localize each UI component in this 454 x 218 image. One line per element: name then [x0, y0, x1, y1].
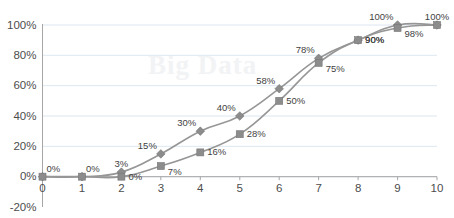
y-axis-tick-label: 100% — [0, 19, 37, 31]
data-point-label: 50% — [286, 96, 305, 106]
x-axis-tick-label: 1 — [68, 182, 96, 194]
data-point-marker-square — [118, 173, 125, 180]
data-point-marker-square — [394, 25, 401, 32]
y-axis-tick-label: 80% — [0, 49, 37, 61]
data-point-label: 90% — [365, 35, 384, 45]
data-point-label: 3% — [101, 159, 141, 169]
y-axis-tick-label: -20% — [0, 201, 37, 213]
data-point-marker-square — [276, 97, 283, 104]
y-axis-tick-label: 60% — [0, 79, 37, 91]
data-point-marker-square — [197, 149, 204, 156]
x-axis-tick-label: 0 — [29, 182, 57, 194]
data-point-marker-square — [157, 163, 164, 170]
y-axis-tick-label: 20% — [0, 140, 37, 152]
x-axis-tick-label: 6 — [265, 182, 293, 194]
x-axis-tick-label: 7 — [305, 182, 333, 194]
x-axis-tick-label: 2 — [107, 182, 135, 194]
data-point-marker-diamond — [235, 112, 244, 121]
y-axis-tick-label: 0% — [0, 170, 37, 182]
data-point-marker-diamond — [157, 150, 166, 159]
data-point-label: 100% — [354, 12, 394, 22]
series-line — [43, 24, 438, 178]
data-point-label: 15% — [117, 141, 157, 151]
data-point-label: 100% — [417, 12, 454, 22]
x-axis-tick-label: 10 — [423, 182, 451, 194]
y-axis-tick-label: 40% — [0, 110, 37, 122]
data-point-label: 98% — [405, 29, 424, 39]
x-axis-tick-label: 4 — [186, 182, 214, 194]
data-point-marker-square — [78, 173, 85, 180]
series-square — [39, 22, 441, 181]
data-point-label: 58% — [235, 76, 275, 86]
data-point-label: 0% — [128, 172, 142, 182]
data-point-marker-square — [355, 37, 362, 44]
data-point-label: 40% — [196, 103, 236, 113]
data-point-label: 75% — [326, 64, 345, 74]
x-axis-tick-label: 5 — [226, 182, 254, 194]
data-point-label: 7% — [168, 167, 182, 177]
data-point-label: 30% — [156, 118, 196, 128]
data-point-label: 0% — [47, 164, 61, 174]
data-point-label: 28% — [247, 129, 266, 139]
data-point-label: 78% — [275, 45, 315, 55]
data-point-marker-square — [434, 22, 441, 29]
data-point-label: 0% — [86, 164, 100, 174]
data-point-marker-square — [315, 59, 322, 66]
series-line — [43, 25, 438, 178]
data-point-marker-diamond — [196, 127, 205, 136]
data-point-marker-square — [39, 173, 46, 180]
grid-lines — [43, 25, 438, 177]
data-point-marker-square — [236, 131, 243, 138]
x-axis-tick-label: 3 — [147, 182, 175, 194]
x-axis-tick-label: 8 — [344, 182, 372, 194]
data-point-label: 16% — [207, 147, 226, 157]
x-axis-tick-label: 9 — [384, 182, 412, 194]
